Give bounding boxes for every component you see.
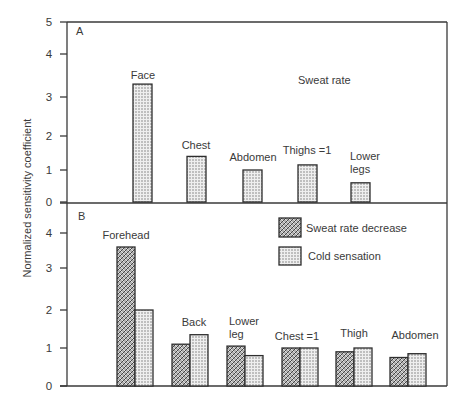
bar-label: Lower	[229, 315, 259, 327]
legend-label: Sweat rate decrease	[306, 222, 407, 234]
bar-face	[133, 84, 152, 202]
bar-label: Chest	[182, 139, 211, 151]
panel-a-letter: A	[76, 25, 84, 37]
bar-sweat-back	[172, 344, 190, 386]
bar-cold-chest	[300, 348, 318, 386]
y-axis-label: Normalized sensitivity coefficient	[21, 119, 33, 278]
y-tick-label: 5	[46, 16, 52, 28]
bar-thighs-	[298, 165, 317, 202]
y-tick-label: 4	[46, 48, 53, 60]
legend-label: Cold sensation	[308, 250, 381, 262]
bar-label: Back	[182, 316, 207, 328]
bar-label: Thighs =1	[283, 144, 332, 156]
y-tick-label: 1	[46, 342, 52, 354]
bar-label: Chest =1	[275, 330, 319, 342]
panel-a-y-ticks: 012345	[46, 16, 67, 208]
legend-swatch-dotted-icon	[279, 247, 301, 265]
y-tick-label: 3	[46, 91, 52, 103]
bar-sweat-thigh	[336, 352, 354, 386]
y-tick-label: 1	[46, 164, 52, 176]
panel-b-bars: ForeheadBackLowerlegChest =1ThighAbdomen	[102, 229, 438, 386]
bar-sweat-abdomen	[390, 358, 408, 387]
bar-sweat-chest	[282, 348, 300, 386]
y-tick-label: 3	[46, 262, 52, 274]
bar-cold-lower-leg	[245, 356, 263, 386]
bar-label: Thigh	[340, 327, 368, 339]
y-tick-label: 0	[46, 196, 52, 208]
legend-swatch-hatched-icon	[279, 218, 301, 237]
y-tick-label: 0	[46, 380, 52, 392]
bar-label: Forehead	[102, 229, 149, 241]
bar-cold-forehead	[135, 310, 153, 386]
panel-b-y-ticks: 01234	[46, 227, 67, 392]
legend: Sweat rate decrease Cold sensation	[279, 218, 407, 265]
bar-label: Face	[131, 69, 155, 81]
bar-label: legs	[350, 163, 371, 175]
y-tick-label: 4	[46, 227, 53, 239]
bar-cold-abdomen	[408, 354, 426, 386]
bar-label: Lower	[350, 150, 380, 162]
panel-b-letter: B	[78, 210, 85, 222]
legend-item-cold-sensation: Cold sensation	[279, 247, 381, 265]
bar-cold-thigh	[354, 348, 372, 386]
panel-a-title: Sweat rate	[298, 74, 351, 86]
bar-label: Abdomen	[391, 329, 438, 341]
bar-sweat-lower-leg	[227, 346, 245, 386]
bar-label: leg	[229, 328, 244, 340]
bar-label: Abdomen	[229, 151, 276, 163]
bar-chest	[187, 156, 206, 202]
y-tick-label: 2	[46, 304, 52, 316]
bar-abdomen	[243, 170, 262, 202]
panel-a-bars: FaceChestAbdomenThighs =1Lowerlegs	[131, 69, 381, 202]
sensitivity-chart: Normalized sensitivity coefficient 01234…	[0, 0, 464, 406]
bar-cold-back	[190, 335, 208, 386]
legend-item-sweat-rate-decrease: Sweat rate decrease	[279, 218, 407, 237]
bar-sweat-forehead	[117, 247, 135, 386]
y-tick-label: 2	[46, 130, 52, 142]
bar-lower-legs	[351, 183, 370, 202]
